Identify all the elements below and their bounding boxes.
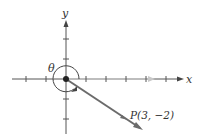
- angle-diagram: y x θ P(3, −2): [0, 0, 201, 140]
- y-arrow-icon: [64, 20, 69, 27]
- x-axis: [12, 76, 184, 82]
- origin-point: [63, 76, 69, 82]
- x-arrow-icon: [177, 77, 184, 82]
- y-axis-label: y: [61, 7, 69, 20]
- terminal-ray: [66, 79, 143, 130]
- arc-arrow-icon: [71, 86, 77, 92]
- point-label: P(3, −2): [129, 109, 174, 121]
- initial-side-arrow-icon: [148, 76, 155, 82]
- x-axis-label: x: [186, 73, 193, 86]
- angle-label: θ: [48, 62, 55, 75]
